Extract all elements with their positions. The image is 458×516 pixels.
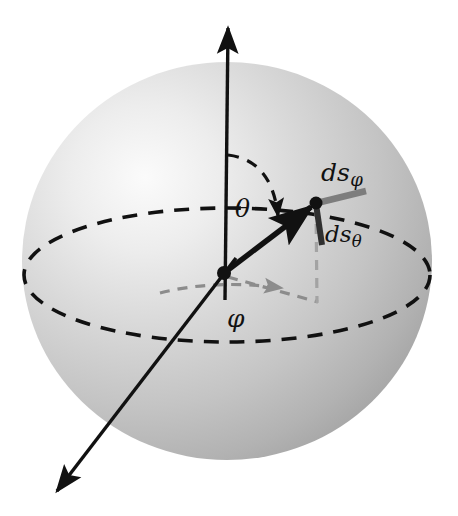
ds-phi-base: ds [321,158,350,187]
ds-phi-subscript: φ [350,169,363,190]
spherical-coordinates-figure: dsφ dsθ θ φ [0,0,458,516]
surface-point [310,197,323,210]
ds-theta-base: ds [325,221,352,247]
theta-angle-label: θ [235,196,250,221]
ds-theta-label: dsθ [325,223,362,246]
ds-theta-subscript: θ [352,232,362,251]
origin-point [217,266,231,280]
ds-phi-label: dsφ [321,160,362,185]
phi-angle-label: φ [227,306,245,331]
diagram-canvas [0,0,458,516]
